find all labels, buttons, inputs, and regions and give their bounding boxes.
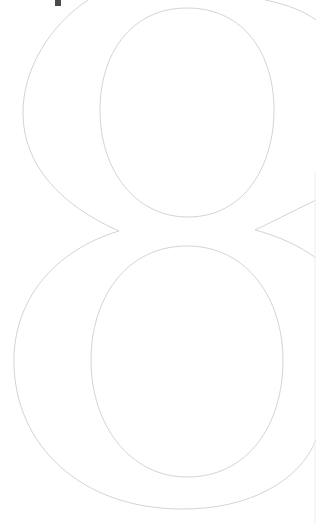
upper-counter (100, 8, 274, 217)
outer-contour-right-waist-lower (255, 230, 316, 258)
outer-contour-right-waist-upper (255, 200, 316, 230)
lower-counter (91, 246, 283, 477)
numeral-eight-outline (0, 0, 316, 524)
outer-contour-right-top (265, 0, 316, 20)
